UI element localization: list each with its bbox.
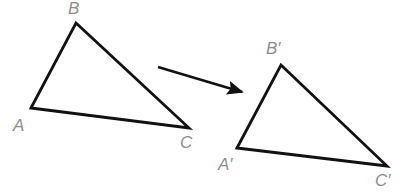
vertex-label-b-prime: B′ bbox=[266, 40, 281, 57]
triangle-a-prime-b-prime-c-prime-outline bbox=[237, 65, 387, 166]
geometry-figure bbox=[0, 0, 401, 193]
vertex-label-a-prime: A′ bbox=[218, 156, 233, 173]
vertex-label-c: C bbox=[180, 134, 192, 151]
triangle-abc-outline bbox=[31, 23, 189, 128]
vertex-label-b: B bbox=[68, 0, 79, 17]
vertex-label-a: A bbox=[13, 117, 24, 134]
vertex-label-c-prime: C′ bbox=[375, 172, 390, 189]
diagram-canvas: A B C A′ B′ C′ bbox=[0, 0, 401, 193]
translation-arrow-icon bbox=[158, 67, 242, 92]
